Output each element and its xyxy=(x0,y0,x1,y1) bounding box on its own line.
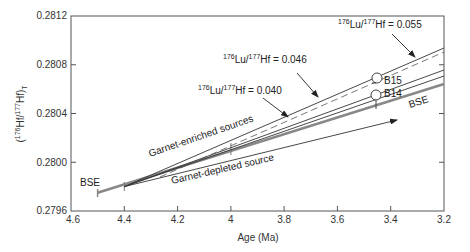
x-tick-label: 3.6 xyxy=(330,214,344,225)
lu-055-label: 176Lu/177Hf = 0.055 xyxy=(338,18,422,30)
bse-line xyxy=(98,84,444,193)
garnet-depleted-label: Garnet-depleted source xyxy=(170,151,275,185)
x-tick-label: 4.2 xyxy=(171,214,185,225)
x-tick-labels: 4.6 4.4 4.2 4 3.8 3.6 3.4 3.2 xyxy=(66,214,451,225)
garnet-enriched-label: Garnet-enriched sources xyxy=(147,113,255,159)
b14-label: B14 xyxy=(384,88,402,99)
y-tick-label: 0.2800 xyxy=(36,157,67,168)
y-tick-labels: 0.2812 0.2808 0.2804 0.2800 0.2796 xyxy=(36,10,67,216)
bse-start-label: BSE xyxy=(80,177,100,188)
x-tick-label: 3.8 xyxy=(277,214,291,225)
x-tick-label: 3.2 xyxy=(437,214,451,225)
y-tick-label: 0.2804 xyxy=(36,108,67,119)
x-tick-label: 3.4 xyxy=(384,214,398,225)
chart: 0.2812 0.2808 0.2804 0.2800 0.2796 4.6 4… xyxy=(0,0,470,252)
x-axis xyxy=(124,206,390,211)
b15-label: B15 xyxy=(384,75,402,86)
x-tick-label: 4.6 xyxy=(66,214,80,225)
x-axis-title: Age (Ma) xyxy=(237,232,278,243)
dashed-line xyxy=(160,52,444,177)
point-b14 xyxy=(371,90,381,100)
x-tick-label: 4 xyxy=(228,214,234,225)
point-b15 xyxy=(372,73,382,83)
x-tick-label: 4.4 xyxy=(117,214,131,225)
lu-046-label: 176Lu/177Hf = 0.046 xyxy=(223,53,307,65)
y-tick-label: 0.2808 xyxy=(36,59,67,70)
plot-frame xyxy=(71,16,444,211)
y-tick-label: 0.2812 xyxy=(36,10,67,21)
series-lines xyxy=(98,48,444,197)
lu-040-label: 176Lu/177Hf = 0.040 xyxy=(198,84,282,96)
y-tick-label: 0.2796 xyxy=(36,205,67,216)
y-axis-title: (176Hf/177Hf)T xyxy=(14,85,28,143)
lu-055-line xyxy=(124,48,444,187)
